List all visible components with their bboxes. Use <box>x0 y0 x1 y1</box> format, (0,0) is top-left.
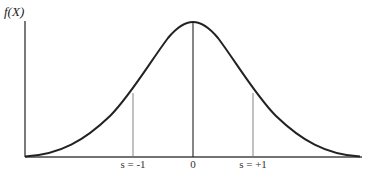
normal-curve-plot <box>0 0 372 186</box>
tick-label-minus-one: s = -1 <box>120 158 145 170</box>
tick-label-zero: 0 <box>190 158 196 170</box>
tick-label-plus-one: s = +1 <box>239 158 267 170</box>
